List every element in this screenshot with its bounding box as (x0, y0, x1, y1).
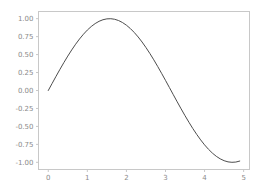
x-tick-label: 4 (202, 174, 207, 182)
x-tick-label: 3 (163, 174, 167, 182)
y-tick-label: 0.25 (18, 69, 34, 77)
y-tick-label: -1.00 (15, 159, 33, 167)
x-tick-label: 0 (46, 174, 50, 182)
figure-canvas: 1.000.750.500.250.00-0.25-0.50-0.75-1.00… (0, 0, 262, 194)
y-tick-label: 0.50 (18, 51, 34, 59)
y-axis-tick-labels: 1.000.750.500.250.00-0.25-0.50-0.75-1.00 (15, 15, 33, 167)
y-tick-label: 0.00 (18, 87, 34, 95)
axes-frame (39, 12, 250, 170)
y-tick-label: 1.00 (18, 15, 34, 23)
x-tick-label: 2 (124, 174, 128, 182)
y-tick-label: -0.25 (15, 105, 33, 113)
y-tick-label: -0.75 (15, 141, 33, 149)
x-tick-label: 5 (241, 174, 245, 182)
y-tick-label: 0.75 (18, 33, 34, 41)
x-tick-label: 1 (85, 174, 89, 182)
y-tick-label: -0.50 (15, 123, 33, 131)
sine-plot: 1.000.750.500.250.00-0.25-0.50-0.75-1.00… (0, 0, 262, 194)
